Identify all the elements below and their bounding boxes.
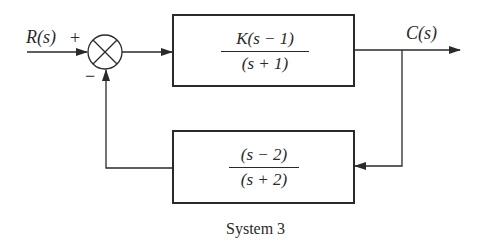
forward-numerator: K(s − 1) [221,29,309,52]
feedback-denominator: (s + 2) [229,168,299,190]
summing-junction-icon [88,35,122,69]
feedback-minus-sign: − [85,66,95,87]
input-label: R(s) [26,27,56,48]
feedback-numerator: (s − 2) [229,145,299,168]
input-plus-sign: + [70,28,80,49]
feedback-takeoff-line [355,50,402,166]
block-diagram: R(s) + − K(s − 1) (s + 1) C(s) (s − 2) (… [0,0,487,251]
forward-denominator: (s + 1) [221,52,309,74]
feedback-return-line [106,70,173,168]
forward-transfer-function: K(s − 1) (s + 1) [221,29,309,74]
diagram-caption: System 3 [226,220,285,238]
output-label: C(s) [406,23,437,44]
feedback-transfer-function: (s − 2) (s + 2) [229,145,299,190]
